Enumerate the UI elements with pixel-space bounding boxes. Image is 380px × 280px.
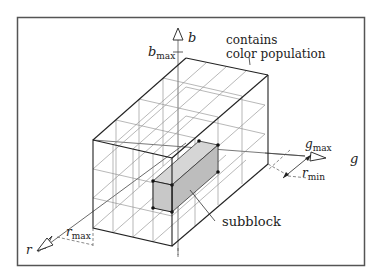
subblock-leader-line [190,190,215,221]
color-cube-diagram: b bmax contains color population gmax g … [0,0,380,280]
population-label-line2: color population [226,47,326,61]
subblock-label: subblock [222,214,281,229]
r-max-label: rmax [66,225,91,241]
b-max-label: bmax [148,44,175,61]
g-axis-arrow-icon [310,152,326,161]
population-label-line1: contains [226,33,277,47]
r-axis-label: r [26,243,33,257]
b-axis-label: b [188,30,196,45]
g-axis-label: g [350,151,358,166]
subblock [151,139,220,214]
r-min-label: rmin [302,166,325,182]
g-max-label: gmax [305,137,332,153]
b-axis-arrow-icon [173,28,183,40]
